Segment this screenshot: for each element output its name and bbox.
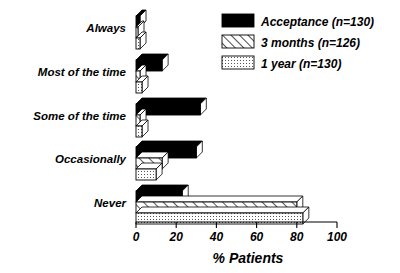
x-axis-title: % Patients [213, 250, 284, 266]
solid-black-swatch [222, 14, 254, 27]
legend-label-acceptance: Acceptance (n=130) [260, 15, 374, 29]
bar-group-row-3: Acceptance (n=130): 30%3 months (n=126):… [136, 141, 202, 180]
bar-group-row-2: Acceptance (n=130): 32%3 months (n=126):… [136, 98, 206, 137]
legend-label-3-months: 3 months (n=126) [261, 36, 360, 50]
category-label-most-of-the-time: Most of the time [38, 66, 127, 78]
legend-label-1-year: 1 year (n=130) [261, 57, 341, 71]
hatch-swatch [222, 35, 254, 48]
bar-chart: Always Most of the time Some of the time… [0, 0, 400, 273]
category-label-occasionally: Occasionally [55, 153, 127, 165]
category-label-never: Never [94, 197, 126, 209]
tick-label-40: 40 [209, 230, 224, 244]
dotted-swatch [222, 56, 254, 69]
bar-group-row-1: Acceptance (n=130): 13%3 months (n=126):… [136, 54, 168, 93]
category-labels: Always Most of the time Some of the time… [33, 22, 126, 209]
x-axis: 020406080100 % Patients [133, 222, 348, 266]
legend: Acceptance (n=130) 3 months (n=126) 1 ye… [222, 14, 374, 71]
bar-group-row-0: Acceptance (n=130): 2%3 months (n=126): … [136, 10, 146, 49]
tick-label-0: 0 [133, 230, 140, 244]
bar-3-2: 1 year (n=130): 10% [136, 163, 162, 180]
bar-group-row-4: Acceptance (n=130): 23%3 months (n=126):… [136, 185, 309, 224]
bar-2-0: Acceptance (n=130): 32% [136, 98, 206, 115]
tick-label-100: 100 [327, 230, 347, 244]
chart-svg: Always Most of the time Some of the time… [0, 0, 400, 273]
category-label-some-of-the-time: Some of the time [33, 110, 126, 122]
tick-label-80: 80 [290, 230, 304, 244]
tick-label-20: 20 [169, 230, 184, 244]
category-label-always: Always [85, 22, 126, 34]
axis-tick-labels: 020406080100 [133, 230, 348, 244]
tick-label-60: 60 [250, 230, 264, 244]
